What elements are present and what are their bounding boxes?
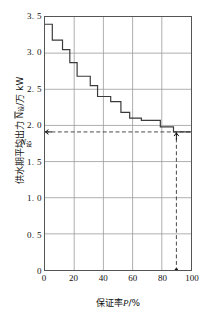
x-tick-label: 100	[185, 273, 199, 283]
x-tick-label: 80	[158, 273, 167, 283]
n-design-arrow-icon	[45, 130, 51, 135]
x-tick-label: 40	[99, 273, 108, 283]
x-axis-title: 保证率P/%	[44, 296, 192, 309]
n-design-label: N设	[20, 137, 32, 148]
x-tick-label: 0	[42, 273, 47, 283]
y-tick-label: 1. 0	[27, 193, 42, 203]
annotation-layer	[45, 17, 191, 270]
x-tick-label: 20	[69, 273, 78, 283]
n-design-subscript: 设	[26, 140, 32, 147]
p-design-arrow-icon	[174, 133, 179, 140]
guaranteed-rate-chart: 供水期平均出力 N设/万 kW 00. 51. 01. 52. 02. 53. …	[0, 0, 209, 318]
y-tick-label: 0. 5	[27, 230, 42, 240]
plot-area	[44, 16, 192, 271]
y-tick-label: 3. 5	[27, 11, 42, 21]
x-tick-label: 60	[128, 273, 137, 283]
x-axis-title-prefix: 保证率	[96, 298, 123, 308]
x-axis-title-suffix: /%	[128, 298, 140, 308]
p-design-axis-dot	[175, 268, 179, 270]
y-tick-label: 1. 5	[27, 157, 42, 167]
y-tick-label: 2. 0	[27, 120, 42, 130]
y-tick-label: 3. 0	[27, 47, 42, 57]
x-axis-tick-labels: 020406080100	[44, 273, 192, 287]
y-tick-label: 2. 5	[27, 84, 42, 94]
